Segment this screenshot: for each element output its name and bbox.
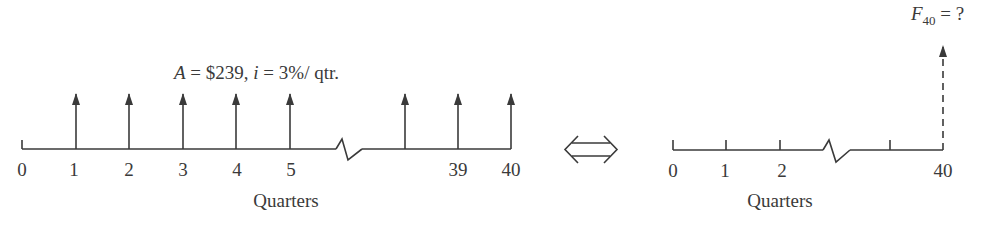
tick-label-5: 5 — [286, 159, 296, 180]
left-cash-flow-diagram — [22, 94, 511, 160]
tick-label-1: 1 — [720, 160, 730, 181]
tick-label-40: 40 — [502, 159, 521, 180]
right-cash-flow-diagram — [673, 46, 943, 162]
right-axis-label: Quarters — [747, 190, 812, 211]
tick-label-2: 2 — [124, 159, 134, 180]
tick-label-3: 3 — [178, 159, 188, 180]
axis-break-icon — [336, 139, 362, 160]
tick-label-0: 0 — [668, 160, 678, 181]
tick-label-4: 4 — [232, 159, 242, 180]
left-tick-labels: 0 1 2 3 4 5 39 40 — [17, 159, 520, 180]
equivalence-arrow-icon — [565, 136, 617, 163]
tick-label-1: 1 — [69, 159, 79, 180]
left-axis-label: Quarters — [253, 190, 318, 211]
right-tick-labels: 0 1 2 40 — [668, 160, 952, 181]
tick-label-0: 0 — [17, 159, 27, 180]
tick-label-39: 39 — [449, 159, 468, 180]
axis-break-icon — [823, 140, 850, 162]
tick-label-2: 2 — [777, 160, 787, 181]
annuity-annotation: A = $239, i = 3%/ qtr. — [172, 62, 339, 83]
future-value-label: F40 = ? — [910, 3, 964, 28]
tick-label-40: 40 — [934, 160, 953, 181]
cash-flow-diagrams: A = $239, i = 3%/ qtr. 0 1 2 3 4 5 39 40… — [0, 0, 981, 228]
